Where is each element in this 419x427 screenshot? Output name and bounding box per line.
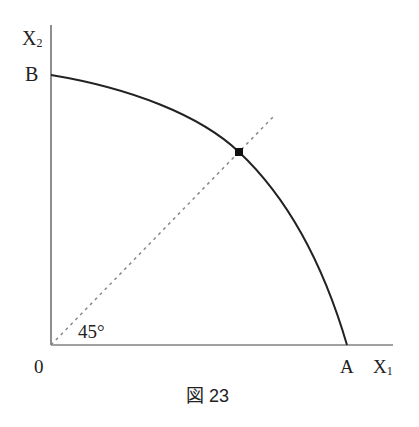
figure-caption: 図 23 bbox=[186, 386, 229, 406]
origin-label: 0 bbox=[34, 356, 44, 377]
angle-label: 45° bbox=[78, 321, 105, 342]
frontier-curve bbox=[51, 75, 347, 345]
intersection-marker bbox=[235, 148, 243, 156]
y-axis-label: X2 bbox=[22, 27, 42, 50]
production-possibility-diagram: X2 B 45° 0 A X1 図 23 bbox=[0, 0, 419, 427]
point-a-label: A bbox=[340, 356, 354, 377]
x-axis-label: X1 bbox=[373, 356, 393, 378]
point-b-label: B bbox=[25, 63, 38, 85]
